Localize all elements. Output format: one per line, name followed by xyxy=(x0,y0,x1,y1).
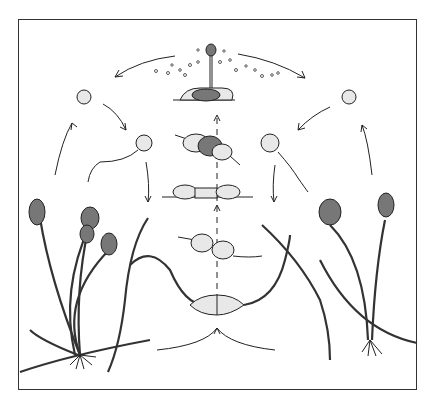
progametangia xyxy=(178,234,262,259)
bottom-merge-arrow xyxy=(157,328,275,350)
life-cycle-diagram xyxy=(0,0,437,405)
germinating-zygospore xyxy=(173,44,235,101)
left-sporangiophores xyxy=(20,199,150,372)
left-spore-cycle xyxy=(55,90,152,202)
right-sporangiophores xyxy=(319,193,417,356)
right-spore-cycle xyxy=(261,90,372,202)
fused-gametangia xyxy=(162,185,253,199)
developing-zygospore xyxy=(175,134,240,165)
released-spores xyxy=(155,49,280,78)
